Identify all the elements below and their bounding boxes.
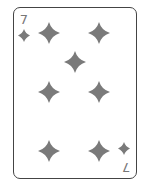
diamond-icon	[88, 22, 110, 44]
corner-diamond-icon-top-left	[18, 29, 30, 42]
diamond-icon	[64, 51, 86, 73]
diamond-icon	[88, 140, 110, 162]
corner-rank-top-left: 7	[18, 13, 30, 26]
diamond-icon	[38, 22, 60, 44]
corner-rank-bottom-right: 7	[120, 161, 132, 174]
diamond-icon	[38, 81, 60, 103]
diamond-icon	[88, 81, 110, 103]
diamond-icon	[38, 140, 60, 162]
corner-diamond-icon-bottom-right	[118, 142, 130, 155]
